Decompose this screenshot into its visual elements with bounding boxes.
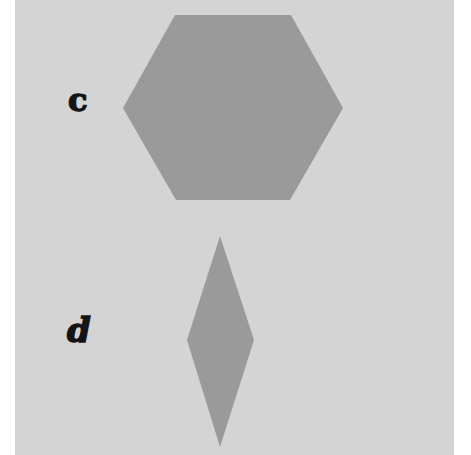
rhombus-shape <box>187 236 254 447</box>
label-d: d <box>67 313 91 347</box>
figure-shapes <box>0 0 471 455</box>
label-c: c <box>68 84 87 116</box>
hexagon-shape <box>123 15 343 200</box>
